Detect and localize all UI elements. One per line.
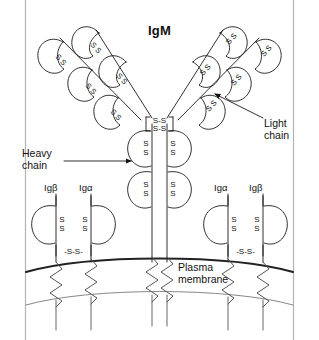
hinge-bond-text: S-S S-S <box>153 116 166 133</box>
panel-borders <box>26 0 294 340</box>
svg-text:S: S <box>143 189 148 198</box>
fab-arm-upper-left: S S S S S S S S S S <box>38 27 152 130</box>
heavy-chain-sulfur-text: S S S S S S S S <box>143 139 175 198</box>
svg-text:S: S <box>231 215 236 224</box>
svg-text:S S: S S <box>229 72 244 87</box>
svg-text:S S: S S <box>54 52 69 67</box>
heavy-chain-stalks <box>128 124 192 262</box>
svg-text:S S: S S <box>84 81 99 96</box>
svg-text:S: S <box>59 224 64 233</box>
svg-text:S: S <box>82 224 87 233</box>
svg-text:S: S <box>170 139 175 148</box>
interchain-ss-left: -S-S- <box>64 247 83 256</box>
svg-text:S: S <box>82 215 87 224</box>
svg-text:S: S <box>143 180 148 189</box>
svg-text:S: S <box>143 139 148 148</box>
interchain-disulfide-text: -S-S- -S-S- <box>64 247 255 256</box>
svg-text:S S: S S <box>109 107 124 122</box>
hinge-ss-2: S-S <box>153 124 166 133</box>
interchain-ss-right: -S-S- <box>236 247 255 256</box>
ig-beta-left-label: Igβ <box>44 183 57 194</box>
light-chain-leader <box>215 94 263 118</box>
svg-text:S S: S S <box>198 62 213 77</box>
plasma-membrane <box>26 259 293 306</box>
svg-text:S: S <box>170 180 175 189</box>
ig-alpha-right-label: Igα <box>214 183 227 194</box>
ig-heterodimer-sulfur-text: S S S S S S S S <box>59 215 259 233</box>
transmembrane-helices <box>50 257 269 307</box>
svg-text:S: S <box>254 224 259 233</box>
ig-alpha-left-label: Igα <box>79 183 92 194</box>
svg-text:S: S <box>143 148 148 157</box>
plasma-membrane-label: Plasma membrane <box>178 262 228 286</box>
figure-panel: S S S S S S S S S S S S S S <box>0 0 319 340</box>
light-chain-label: Light chain <box>264 118 289 142</box>
svg-text:S: S <box>231 224 236 233</box>
fab-arm-upper-right <box>167 27 281 130</box>
heavy-chain-label: Heavy chain <box>22 148 52 172</box>
ig-beta-right-label: Igβ <box>249 183 262 194</box>
figure-title: IgM <box>0 24 319 39</box>
svg-text:S: S <box>254 215 259 224</box>
svg-text:S: S <box>170 148 175 157</box>
svg-text:S: S <box>59 215 64 224</box>
svg-text:S: S <box>170 189 175 198</box>
